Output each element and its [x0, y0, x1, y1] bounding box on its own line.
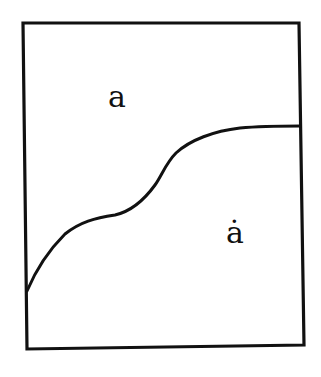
frame-rectangle — [23, 23, 304, 349]
region-label-lower: ȧ — [226, 218, 244, 248]
region-label-upper: a — [108, 82, 126, 112]
diagram-canvas — [0, 0, 321, 377]
boundary-curve — [27, 126, 300, 291]
